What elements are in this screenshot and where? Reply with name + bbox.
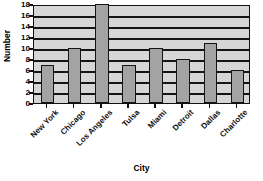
chart-title: in Selected Cities [0, 0, 263, 2]
y-tick-mark [29, 92, 33, 94]
x-tick-mark [100, 104, 102, 108]
x-tick-mark [73, 104, 75, 108]
y-tick-label: 12 [14, 34, 30, 42]
y-tick-mark [29, 26, 33, 28]
bar [204, 43, 218, 104]
bar [122, 65, 136, 104]
x-tick-mark [181, 104, 183, 108]
x-tick-label-text: Detroit [171, 108, 196, 133]
x-axis-title: City [33, 163, 250, 173]
y-tick-mark [29, 70, 33, 72]
x-tick-label-text: Dallas [200, 108, 223, 131]
bar [95, 4, 109, 103]
y-tick-mark [29, 103, 33, 105]
y-axis-tick-labels: 181614121086420 [13, 0, 30, 181]
bar [176, 59, 190, 103]
y-tick-mark [29, 37, 33, 39]
x-tick-mark [209, 104, 211, 108]
bar [68, 48, 82, 103]
y-tick-label: 10 [14, 45, 30, 53]
y-tick-label: 2 [14, 89, 30, 97]
x-tick-label-text: Tulsa [121, 108, 142, 129]
x-tick-mark [127, 104, 129, 108]
y-tick-label: 16 [14, 12, 30, 20]
y-tick-label: 6 [14, 67, 30, 75]
y-tick-label: 14 [14, 23, 30, 31]
bars-group [34, 6, 249, 103]
bar [149, 48, 163, 103]
y-tick-mark [29, 81, 33, 83]
y-tick-label: 8 [14, 56, 30, 64]
y-tick-label: 18 [14, 1, 30, 9]
x-tick-mark [236, 104, 238, 108]
x-tick-label-text: Miami [146, 108, 168, 130]
y-tick-mark [29, 15, 33, 17]
plot-area [33, 5, 250, 104]
x-tick-label-text: New York [28, 108, 60, 140]
x-tick-mark [46, 104, 48, 108]
y-tick-label: 4 [14, 78, 30, 86]
bar-chart: in Selected Cities Number 18161412108642… [0, 0, 263, 181]
bar [231, 70, 245, 103]
y-tick-label: 0 [14, 100, 30, 108]
y-tick-mark [29, 4, 33, 6]
x-tick-mark [154, 104, 156, 108]
y-tick-mark [29, 59, 33, 61]
bar [41, 65, 55, 104]
y-axis-title: Number [2, 18, 12, 74]
y-tick-mark [29, 48, 33, 50]
x-tick-label-text: Charlotte [219, 108, 250, 139]
